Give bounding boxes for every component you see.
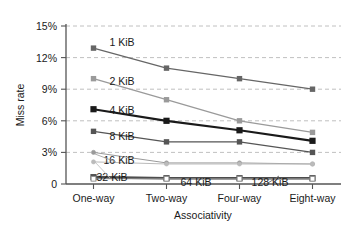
y-axis-tick-labels: 15% 12% 9% 6% 3% 0 — [36, 20, 57, 190]
series-label-1-kib: 1 KiB — [109, 36, 134, 48]
series-label-32-kib: 32 KiB — [97, 171, 128, 183]
x-tick-label-eight-way: Eight-way — [289, 192, 336, 204]
series-annotation-layer: 1 KiB2 KiB4 KiB8 KiB16 KiB32 KiB64 KiB12… — [97, 36, 289, 188]
data-point — [310, 150, 315, 155]
data-point — [91, 45, 96, 50]
x-axis-tick-labels: One-way Two-way Four-way Eight-way — [72, 192, 336, 204]
x-tick-label-four-way: Four-way — [218, 192, 263, 204]
data-point — [91, 150, 95, 154]
data-point — [91, 176, 96, 181]
data-point — [164, 162, 168, 166]
chart-canvas: 15% 12% 9% 6% 3% 0 One-way Two-way Four-… — [0, 0, 353, 243]
data-point — [91, 160, 95, 164]
data-point — [163, 118, 169, 124]
data-point — [91, 129, 96, 134]
data-point — [310, 162, 314, 166]
y-tick-label-0: 0 — [51, 178, 57, 190]
y-tick-label-9: 9% — [42, 83, 57, 95]
y-axis-title: Miss rate — [14, 84, 26, 127]
data-point — [237, 118, 242, 123]
data-point — [310, 87, 315, 92]
data-point — [309, 138, 315, 144]
x-tick-label-two-way: Two-way — [146, 192, 188, 204]
data-point — [91, 76, 96, 81]
data-point — [90, 106, 96, 112]
cache-miss-rate-chart: 15% 12% 9% 6% 3% 0 One-way Two-way Four-… — [0, 0, 353, 243]
series-label-4-kib: 4 KiB — [109, 104, 134, 116]
data-point — [310, 176, 315, 181]
series-label-64-kib: 64 KiB — [181, 176, 212, 188]
series-label-2-kib: 2 KiB — [109, 75, 134, 87]
series-label-128-kib: 128 KiB — [252, 176, 289, 188]
data-point — [164, 97, 169, 102]
data-point — [236, 127, 242, 133]
y-tick-label-3: 3% — [42, 146, 57, 158]
y-tick-label-15: 15% — [36, 20, 57, 32]
data-point — [164, 176, 169, 181]
data-point — [237, 162, 241, 166]
data-point — [237, 76, 242, 81]
y-tick-label-6: 6% — [42, 115, 57, 127]
x-tick-label-one-way: One-way — [72, 192, 115, 204]
x-axis-title: Associativity — [174, 209, 233, 221]
data-point — [237, 139, 242, 144]
data-point — [310, 130, 315, 135]
series-label-16-kib: 16 KiB — [104, 154, 135, 166]
y-axis-ticks — [61, 26, 66, 184]
y-tick-label-12: 12% — [36, 52, 57, 64]
series-label-8-kib: 8 KiB — [109, 130, 134, 142]
data-point — [237, 176, 242, 181]
data-point — [164, 139, 169, 144]
data-point — [164, 65, 169, 70]
